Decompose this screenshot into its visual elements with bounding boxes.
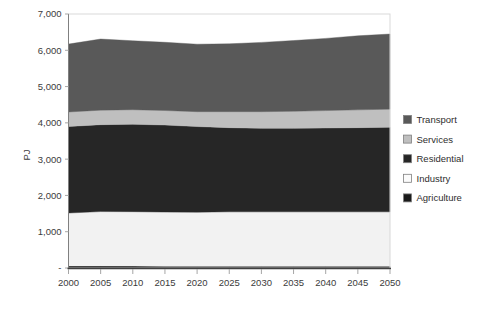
area-series-transport — [69, 34, 391, 112]
legend-swatch-agriculture — [404, 194, 412, 202]
legend-label-residential: Residential — [417, 153, 464, 164]
x-tick-label: 2010 — [122, 277, 143, 288]
y-tick-label: 7,000 — [38, 8, 62, 19]
legend-label-services: Services — [417, 134, 454, 145]
legend-swatch-residential — [404, 155, 412, 163]
area-series-residential — [69, 124, 391, 213]
legend-item-agriculture[interactable]: Agriculture — [404, 192, 462, 203]
y-axis-title: PJ — [21, 149, 32, 160]
legend-label-industry: Industry — [417, 173, 451, 184]
chart-canvas: -1,0002,0003,0004,0005,0006,0007,000PJ20… — [0, 0, 491, 311]
legend-item-transport[interactable]: Transport — [404, 114, 458, 125]
x-tick-label: 2035 — [283, 277, 304, 288]
legend: TransportServicesResidentialIndustryAgri… — [404, 114, 464, 203]
x-axis: 2000200520102015202020252030203520402045… — [58, 269, 401, 288]
x-tick-label: 2040 — [315, 277, 336, 288]
x-tick-label: 2050 — [379, 277, 400, 288]
y-tick-label: 3,000 — [38, 154, 62, 165]
legend-label-agriculture: Agriculture — [417, 192, 462, 203]
stacked-area-chart: -1,0002,0003,0004,0005,0006,0007,000PJ20… — [0, 0, 491, 311]
legend-label-transport: Transport — [417, 114, 458, 125]
y-tick-label: 5,000 — [38, 81, 62, 92]
legend-item-residential[interactable]: Residential — [404, 153, 464, 164]
y-axis: -1,0002,0003,0004,0005,0006,0007,000 — [38, 8, 69, 273]
plot-areas — [69, 34, 391, 268]
y-tick-label: - — [58, 262, 61, 273]
x-tick-label: 2045 — [347, 277, 368, 288]
legend-item-industry[interactable]: Industry — [404, 173, 451, 184]
legend-swatch-transport — [404, 116, 412, 124]
x-tick-label: 2030 — [251, 277, 272, 288]
legend-item-services[interactable]: Services — [404, 134, 454, 145]
x-tick-label: 2015 — [154, 277, 175, 288]
y-tick-label: 1,000 — [38, 226, 62, 237]
x-tick-label: 2005 — [90, 277, 111, 288]
area-series-industry — [69, 212, 391, 267]
legend-swatch-industry — [404, 174, 412, 182]
x-tick-label: 2000 — [58, 277, 79, 288]
y-tick-label: 4,000 — [38, 117, 62, 128]
y-tick-label: 2,000 — [38, 190, 62, 201]
x-tick-label: 2020 — [187, 277, 208, 288]
y-tick-label: 6,000 — [38, 45, 62, 56]
legend-swatch-services — [404, 135, 412, 143]
x-tick-label: 2025 — [219, 277, 240, 288]
